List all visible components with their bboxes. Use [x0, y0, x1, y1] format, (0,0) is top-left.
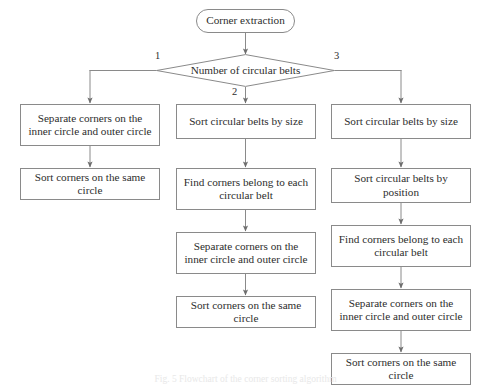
branch-label-2: 2: [232, 86, 237, 97]
process-node-b3-s4[interactable]: Separate corners on the inner circle and…: [331, 289, 471, 331]
start-node-label: Corner extraction: [206, 14, 285, 28]
branch-label-3: 3: [334, 50, 339, 61]
decision-node-label: Number of circular belts: [191, 64, 301, 77]
decision-node-number-of-circular-belts[interactable]: Number of circular belts: [156, 54, 335, 87]
process-node-b3-s3-label: Find corners belong to each circular bel…: [336, 233, 466, 260]
process-node-b2-s2-label: Find corners belong to each circular bel…: [181, 176, 311, 203]
process-node-b3-s2[interactable]: Sort circular belts by position: [331, 168, 471, 203]
process-node-b2-s3[interactable]: Separate corners on the inner circle and…: [176, 232, 316, 274]
process-node-b2-s4-label: Sort corners on the same circle: [181, 299, 311, 326]
figure-caption: Fig. 5 Flowchart of the corner sorting a…: [0, 374, 491, 385]
process-node-b1-s1-label: Separate corners on the inner circle and…: [25, 112, 155, 139]
process-node-b2-s3-label: Separate corners on the inner circle and…: [181, 240, 311, 267]
start-node-corner-extraction[interactable]: Corner extraction: [196, 9, 295, 33]
process-node-b2-s2[interactable]: Find corners belong to each circular bel…: [176, 168, 316, 210]
process-node-b3-s4-label: Separate corners on the inner circle and…: [336, 297, 466, 324]
branch-label-1: 1: [155, 50, 160, 61]
process-node-b3-s1[interactable]: Sort circular belts by size: [331, 104, 471, 139]
process-node-b1-s2-label: Sort corners on the same circle: [25, 171, 155, 198]
process-node-b1-s1[interactable]: Separate corners on the inner circle and…: [20, 104, 160, 146]
process-node-b3-s2-label: Sort circular belts by position: [336, 172, 466, 199]
process-node-b3-s3[interactable]: Find corners belong to each circular bel…: [331, 225, 471, 267]
process-node-b1-s2[interactable]: Sort corners on the same circle: [20, 168, 160, 200]
process-node-b2-s4[interactable]: Sort corners on the same circle: [176, 296, 316, 328]
process-node-b2-s1-label: Sort circular belts by size: [189, 115, 303, 129]
process-node-b3-s1-label: Sort circular belts by size: [344, 115, 458, 129]
process-node-b2-s1[interactable]: Sort circular belts by size: [176, 104, 316, 139]
